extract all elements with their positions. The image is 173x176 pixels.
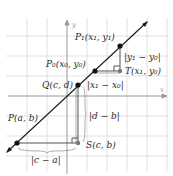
point-p1 <box>117 43 122 48</box>
point-s <box>76 141 80 145</box>
label-q: Q(c, d) <box>42 80 73 90</box>
label-s: S(c, b) <box>86 140 116 150</box>
label-p1: P₁(x₁, y₁) <box>74 32 115 42</box>
coordinate-diagram: y x P₁(x₁, y₁) P₀(x₀, y₀) T(x₁, y₀) Q(c,… <box>0 0 173 176</box>
x-axis-arrow-icon <box>162 94 167 98</box>
y-axis-label: y <box>71 21 77 29</box>
point-p0 <box>92 68 97 73</box>
label-d-minus-b: |d − b| <box>89 111 120 122</box>
label-t: T(x₁, y₀) <box>125 66 162 76</box>
x-axis-label: x <box>160 86 164 94</box>
point-q <box>75 82 80 87</box>
y-axis-arrow-icon <box>65 20 69 25</box>
label-p: P(a, b) <box>7 113 38 123</box>
label-p0: P₀(x₀, y₀) <box>45 59 86 69</box>
point-t <box>118 69 122 73</box>
label-x1-minus-x0: |x₁ − x₀| <box>87 80 124 91</box>
label-c-minus-a: |c − a| <box>31 155 61 166</box>
label-y1-minus-y0: |y₁ − y₀| <box>124 52 161 63</box>
point-p <box>14 140 19 145</box>
